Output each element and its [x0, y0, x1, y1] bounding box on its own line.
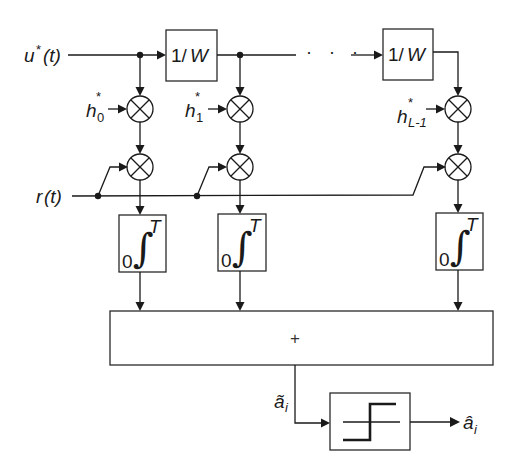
- arrow-into-sum-last: [454, 302, 463, 311]
- decision-output-label: â i: [463, 412, 478, 437]
- coef-base-0: h: [86, 100, 97, 121]
- sum-to-decision-line: [295, 365, 321, 423]
- arrow-into-mult2-1: [236, 145, 245, 154]
- decision-output-sub: i: [474, 422, 478, 437]
- arrow-coef-1: [218, 105, 227, 114]
- arrow-into-mult1-last: [454, 87, 463, 96]
- integral-lower-0: 0: [122, 251, 133, 272]
- coef-star-0: *: [96, 89, 101, 104]
- arrow-into-decision: [321, 419, 330, 428]
- integral-upper-last: T: [466, 214, 479, 235]
- integral-lower-last: 0: [439, 249, 450, 270]
- coef-base-1: h: [185, 100, 196, 121]
- arrow-into-mult2-0: [136, 145, 145, 154]
- tap-column-last: h * L-1: [397, 87, 471, 213]
- arrow-into-mult1-0: [136, 87, 145, 96]
- coef-star-last: *: [408, 95, 413, 110]
- delay-out-to-tap-last: [433, 52, 458, 88]
- arrow-into-mult1-1: [236, 87, 245, 96]
- integrator-1: ∫ 0 T: [218, 214, 266, 271]
- arrow-into-sum-1: [236, 302, 245, 311]
- decision-block: [330, 393, 410, 450]
- integral-upper-0: T: [149, 216, 162, 237]
- arrow-coef-0: [118, 105, 127, 114]
- reference-input-label: u * (t): [24, 42, 61, 66]
- arrow-coef-last: [436, 105, 445, 114]
- arrow-into-delay-1: [374, 51, 383, 60]
- received-base: r: [36, 186, 43, 207]
- arrow-r-to-mult-last: [437, 163, 446, 172]
- r-branch-1: [197, 167, 220, 196]
- summer-box: [110, 311, 493, 365]
- arrow-into-mult2-last: [454, 145, 463, 154]
- decision-input-sub: i: [285, 400, 289, 415]
- delay-block-0: 1/ W: [166, 30, 217, 81]
- delay-label-num-1: 1/: [388, 44, 405, 65]
- arrow-r-to-mult-0: [119, 163, 128, 172]
- integral-lower-1: 0: [221, 250, 232, 271]
- arrow-into-sum-0: [136, 302, 145, 311]
- delay-label-var-0: W: [190, 45, 210, 66]
- coef-sub-last: L-1: [408, 115, 427, 130]
- delay-label-num-0: 1/: [171, 45, 188, 66]
- receiver-diagram: u * (t) 1/ W · · · 1/ W h * 0: [0, 0, 520, 470]
- summer-block: +: [110, 311, 493, 365]
- tap-column-0: h * 0: [86, 55, 153, 215]
- delay-label-var-1: W: [407, 44, 427, 65]
- delay-block-1: 1/ W: [383, 29, 433, 80]
- received-input-label: r (t): [36, 186, 62, 207]
- coef-sub-1: 1: [196, 110, 203, 125]
- decision-input-base: ã: [274, 391, 285, 412]
- arrow-into-delay-0: [157, 51, 166, 60]
- arrow-into-int-0: [136, 206, 145, 215]
- decision-input-label: ã i: [274, 391, 289, 415]
- coef-base-last: h: [397, 106, 408, 127]
- summer-plus: +: [290, 329, 300, 348]
- reference-star: *: [36, 42, 41, 57]
- reference-arg: (t): [43, 45, 61, 66]
- continuation-dots: · · ·: [306, 42, 364, 62]
- r-branch-0: [98, 167, 121, 196]
- arrow-r-to-mult-1: [218, 163, 227, 172]
- received-arg: (t): [44, 186, 62, 207]
- arrow-into-int-1: [236, 205, 245, 214]
- reference-base: u: [24, 45, 35, 66]
- arrow-into-int-last: [454, 204, 463, 213]
- integral-upper-1: T: [249, 215, 262, 236]
- decision-output-base: â: [463, 412, 474, 433]
- coef-sub-0: 0: [97, 110, 104, 125]
- integrator-0: ∫ 0 T: [119, 215, 166, 272]
- coef-star-1: *: [195, 89, 200, 104]
- integrator-last: ∫ 0 T: [436, 213, 483, 270]
- arrow-decision-output: [450, 417, 460, 427]
